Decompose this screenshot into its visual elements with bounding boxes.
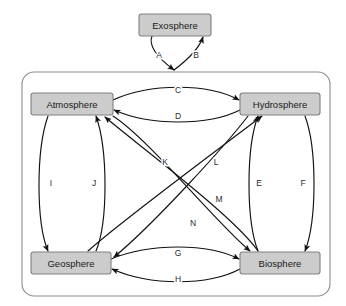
edge-path-J <box>96 116 105 251</box>
edge-path-I <box>39 116 48 251</box>
edge-label-G: G <box>175 248 182 258</box>
edge-label-E: E <box>256 178 262 188</box>
edge-label-F: F <box>300 178 305 188</box>
edge-label-M: M <box>215 194 222 204</box>
node-geosphere[interactable]: Geosphere <box>31 252 111 274</box>
node-biosphere[interactable]: Biosphere <box>240 252 320 274</box>
edge-group <box>39 36 314 282</box>
earth-system-diagram: A A B B C C D D E E F F G G H H I I J J … <box>0 0 346 306</box>
node-label-hydrosphere: Hydrosphere <box>253 99 307 110</box>
node-exosphere[interactable]: Exosphere <box>139 14 211 36</box>
edge-path-K <box>113 116 250 251</box>
edge-label-C: C <box>175 85 181 95</box>
edge-label-K: K <box>162 157 168 167</box>
edge-label-J: J <box>92 178 96 188</box>
node-atmosphere[interactable]: Atmosphere <box>31 93 113 115</box>
edge-path-L <box>114 116 248 257</box>
node-label-atmosphere: Atmosphere <box>46 99 97 110</box>
edge-label-B: B <box>193 50 199 60</box>
edge-label-group: A A B B C C D D E E F F G G H H I I J J … <box>50 50 306 284</box>
diagram-canvas: A A B B C C D D E E F F G G H H I I J J … <box>0 0 346 306</box>
edge-label-N: N <box>190 218 196 228</box>
node-label-exosphere: Exosphere <box>152 20 197 31</box>
edge-label-D: D <box>175 111 181 121</box>
edge-label-L: L <box>214 157 219 167</box>
edge-path-A <box>151 36 174 70</box>
edge-label-I: I <box>50 178 52 188</box>
node-label-biosphere: Biosphere <box>259 258 302 269</box>
node-hydrosphere[interactable]: Hydrosphere <box>240 93 320 115</box>
edge-label-A: A <box>156 50 162 60</box>
node-label-geosphere: Geosphere <box>47 258 94 269</box>
edge-path-F <box>305 116 314 251</box>
edge-label-H: H <box>175 274 181 284</box>
edge-path-N <box>88 116 262 251</box>
